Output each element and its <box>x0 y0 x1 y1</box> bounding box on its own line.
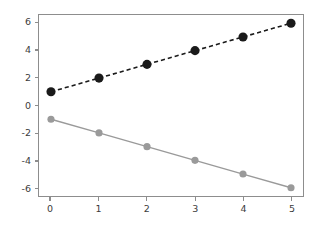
y-tick-label: -2 <box>0 128 31 138</box>
x-tick-mark <box>49 197 50 201</box>
plot-area <box>38 14 304 197</box>
series-line-lower-series <box>51 119 291 188</box>
series-line-upper-series <box>51 23 291 92</box>
x-tick-label: 3 <box>192 204 198 214</box>
x-tick-label: 2 <box>144 204 150 214</box>
data-point-marker <box>191 157 198 164</box>
data-point-marker <box>94 74 103 83</box>
y-tick-mark <box>35 22 39 23</box>
data-point-marker <box>143 143 150 150</box>
y-tick-label: -6 <box>0 184 31 194</box>
y-tick-mark <box>35 77 39 78</box>
series-layer <box>46 19 295 192</box>
x-tick-mark <box>243 197 244 201</box>
data-point-marker <box>142 60 151 69</box>
y-tick-mark <box>35 133 39 134</box>
y-tick-label: 6 <box>0 18 31 28</box>
x-tick-mark <box>291 197 292 201</box>
y-tick-label: 0 <box>0 101 31 111</box>
x-tick-label: 4 <box>241 204 247 214</box>
chart-figure: 6420-2-4-6 012345 <box>0 0 319 227</box>
y-tick-label: -4 <box>0 156 31 166</box>
y-tick-label: 2 <box>0 73 31 83</box>
data-point-marker <box>46 87 55 96</box>
data-point-marker <box>287 184 294 191</box>
y-tick-mark <box>35 105 39 106</box>
x-tick-label: 5 <box>289 204 295 214</box>
data-point-marker <box>190 46 199 55</box>
data-point-marker <box>95 129 102 136</box>
plot-svg <box>39 15 303 196</box>
data-point-marker <box>47 116 54 123</box>
x-tick-label: 1 <box>95 204 101 214</box>
y-tick-mark <box>35 188 39 189</box>
x-tick-mark <box>98 197 99 201</box>
y-tick-label: 4 <box>0 45 31 55</box>
y-tick-mark <box>35 49 39 50</box>
x-tick-label: 0 <box>47 204 53 214</box>
data-point-marker <box>239 170 246 177</box>
series-lower-series <box>47 116 294 192</box>
x-tick-mark <box>195 197 196 201</box>
series-upper-series <box>46 19 295 97</box>
x-tick-mark <box>146 197 147 201</box>
data-point-marker <box>286 19 295 28</box>
data-point-marker <box>238 32 247 41</box>
y-tick-mark <box>35 160 39 161</box>
